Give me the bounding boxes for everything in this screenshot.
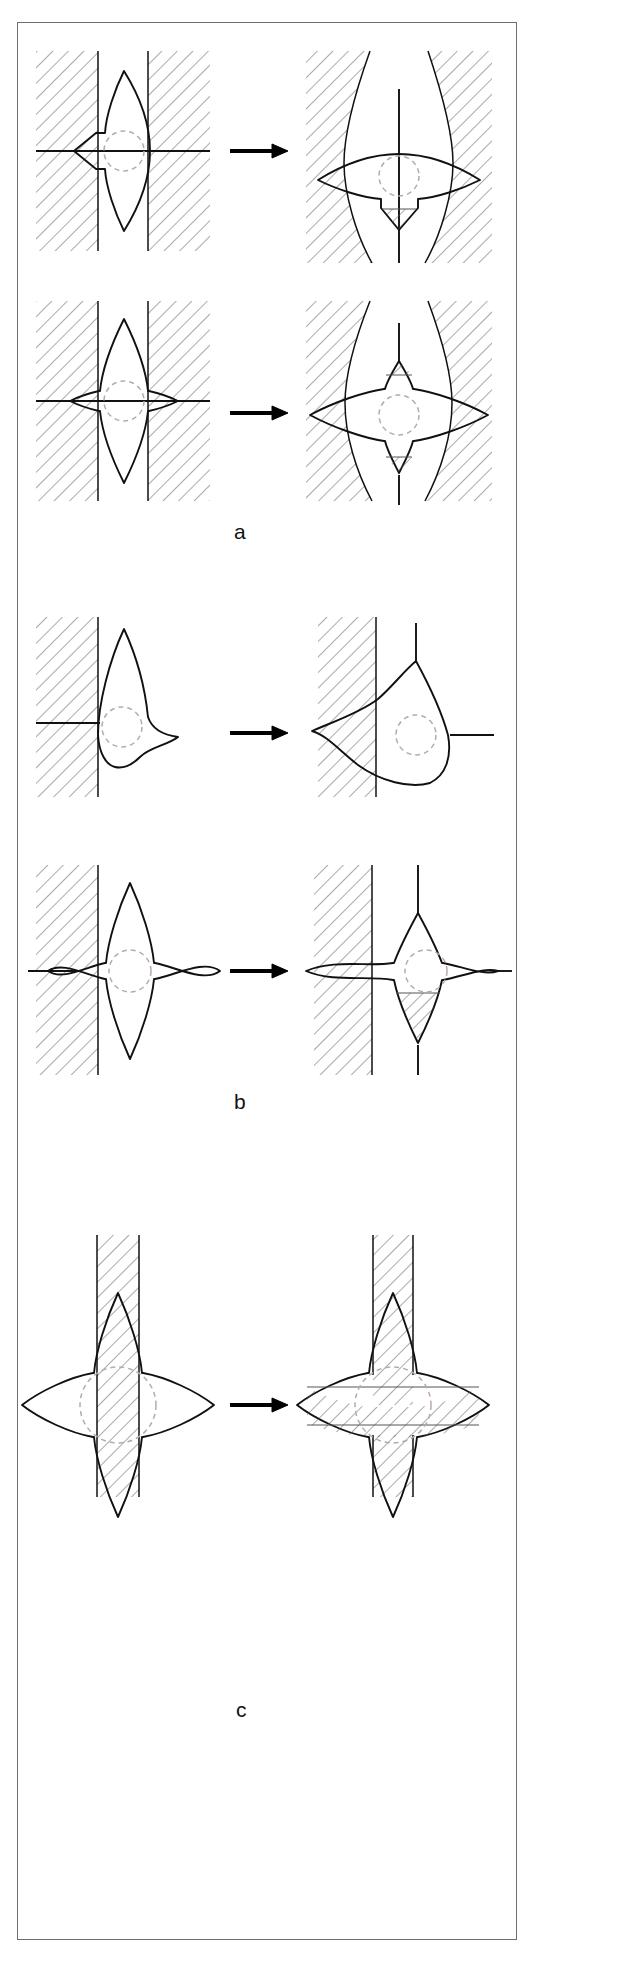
- b2r-left-wall-hatched: [314, 865, 372, 1075]
- b2-left-panel: [28, 865, 220, 1075]
- c1r-vertical-band-lower: [373, 1435, 413, 1497]
- a2-right-hatched-notch: [386, 361, 412, 375]
- a1r-left-wall-hatched: [306, 51, 372, 263]
- c1-arrow-icon: [230, 1398, 288, 1412]
- b1-right-panel: [312, 617, 494, 797]
- b1-left-dashed-circle: [102, 707, 142, 747]
- section-b-row-1: [36, 617, 494, 797]
- b1-left-wall-hatched: [36, 617, 98, 797]
- b1-arrow-icon: [230, 726, 288, 740]
- a1-left-panel: [36, 51, 210, 251]
- section-label-c: c: [236, 1699, 247, 1720]
- b2-right-panel: [306, 865, 512, 1075]
- figure-canvas: [18, 23, 516, 1939]
- c1-right-panel: [297, 1235, 489, 1517]
- a1-arrow-icon: [230, 144, 288, 158]
- section-label-a: a: [234, 521, 246, 542]
- figure-root: a b c: [0, 0, 634, 1965]
- section-a-row-1: [36, 51, 492, 263]
- b1-left-crystal-outline: [98, 629, 178, 768]
- c1-left-panel: [22, 1235, 214, 1517]
- b2-arrow-icon: [230, 964, 288, 978]
- b2-left-wall-hatched: [36, 865, 98, 1075]
- a2-right-dashed-circle: [379, 395, 419, 435]
- b2-left-dashed-circle: [109, 950, 151, 992]
- figure-frame: a b c: [17, 22, 517, 1940]
- b1-left-panel: [36, 617, 178, 797]
- a1-right-hatched-notch: [382, 209, 416, 230]
- section-a-row-2: [36, 301, 492, 505]
- a2-right-hatched-notch-lower: [386, 457, 412, 473]
- a2-right-panel: [306, 301, 492, 505]
- section-b-row-2: [28, 865, 512, 1075]
- a1-right-panel: [306, 51, 492, 263]
- a2-left-panel: [36, 301, 210, 501]
- b2-right-hatched-notch: [396, 993, 440, 1043]
- a1r-right-wall-hatched: [425, 51, 492, 263]
- c1-left-band-hatched: [97, 1235, 139, 1497]
- b1-right-dashed-circle: [396, 715, 436, 755]
- section-c-row-1: [22, 1235, 489, 1517]
- c1r-vertical-band-upper: [373, 1235, 413, 1405]
- a2-arrow-icon: [230, 406, 288, 420]
- section-label-b: b: [234, 1091, 246, 1112]
